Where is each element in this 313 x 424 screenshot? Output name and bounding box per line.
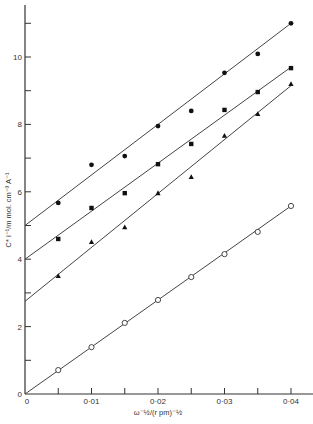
chart: 00·010·020·030·040246810 ω⁻½/(r pm)⁻½ C*… bbox=[0, 0, 313, 424]
data-point-open-circle bbox=[255, 229, 260, 234]
data-point-square bbox=[222, 108, 226, 112]
data-point-triangle bbox=[89, 239, 94, 244]
data-point-circle bbox=[289, 21, 294, 26]
x-tick-label: 0·02 bbox=[150, 397, 167, 406]
fit-lines bbox=[25, 23, 291, 394]
data-point-square bbox=[56, 237, 60, 241]
data-point-square bbox=[256, 90, 260, 94]
data-point-open-circle bbox=[155, 297, 160, 302]
y-axis-title: C* i⁻¹/m mol. cm⁻³ A⁻¹ bbox=[4, 172, 13, 247]
data-point-circle bbox=[89, 162, 94, 167]
x-tick-label: 0·01 bbox=[83, 397, 100, 406]
data-point-circle bbox=[222, 70, 227, 75]
y-tick-label: 10 bbox=[13, 53, 22, 62]
data-point-square bbox=[123, 191, 127, 195]
y-tick-label: 6 bbox=[18, 188, 23, 197]
data-point-open-circle bbox=[288, 203, 293, 208]
x-tick-label: 0·03 bbox=[216, 397, 233, 406]
data-point-open-circle bbox=[222, 252, 227, 257]
data-point-open-circle bbox=[89, 345, 94, 350]
data-point-square bbox=[156, 162, 160, 166]
x-tick-label: 0 bbox=[25, 397, 30, 406]
data-points bbox=[56, 21, 294, 373]
data-point-circle bbox=[255, 52, 260, 57]
y-tick-label: 4 bbox=[18, 255, 23, 264]
data-point-square bbox=[189, 142, 193, 146]
data-point-triangle bbox=[122, 224, 127, 229]
y-tick-label: 8 bbox=[18, 120, 23, 129]
y-tick-label: 0 bbox=[18, 390, 23, 399]
data-point-open-circle bbox=[189, 274, 194, 279]
data-point-open-circle bbox=[122, 320, 127, 325]
x-axis-title: ω⁻½/(r pm)⁻½ bbox=[134, 408, 183, 417]
data-point-circle bbox=[156, 124, 161, 129]
data-point-triangle bbox=[222, 133, 227, 138]
axes: 00·010·020·030·040246810 bbox=[13, 5, 313, 406]
data-point-square bbox=[89, 206, 93, 210]
data-point-circle bbox=[189, 109, 194, 114]
data-point-triangle bbox=[288, 81, 293, 86]
data-point-triangle bbox=[189, 174, 194, 179]
data-point-square bbox=[289, 66, 293, 70]
data-point-open-circle bbox=[56, 367, 61, 372]
data-point-circle bbox=[122, 154, 127, 159]
data-point-triangle bbox=[155, 190, 160, 195]
data-point-circle bbox=[56, 201, 61, 206]
y-tick-label: 2 bbox=[18, 323, 23, 332]
x-tick-label: 0·04 bbox=[283, 397, 300, 406]
